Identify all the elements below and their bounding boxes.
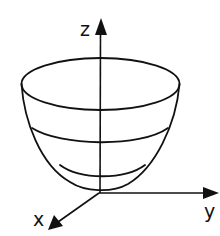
z-axis-label: z [80, 18, 90, 40]
x-axis-arrow-icon [48, 215, 63, 230]
z-axis-arrow-icon [95, 18, 107, 35]
y-axis-arrow-icon [203, 187, 219, 199]
y-axis-label: y [204, 200, 215, 222]
z-axis-line [100, 32, 101, 193]
paraboloid-diagram: z y x [0, 0, 220, 236]
x-axis-line [58, 193, 99, 222]
lower-level-curve [60, 165, 145, 176]
x-axis-label: x [33, 208, 44, 230]
